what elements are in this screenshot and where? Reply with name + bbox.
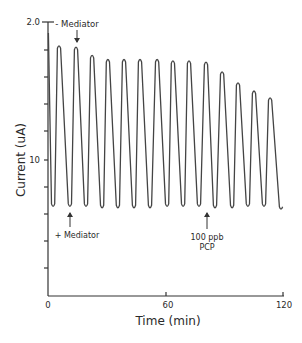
chart: 2.0 10 0 60 120 Time (min) Current (uA) …: [0, 0, 302, 343]
svg-text:+ Mediator: + Mediator: [55, 231, 100, 240]
x-tick-label-120: 120: [276, 300, 292, 310]
annotation-plus-mediator: + Mediator: [55, 212, 100, 240]
y-axis-title: Current (uA): [14, 123, 28, 197]
annotation-minus-mediator: - Mediator: [55, 19, 99, 43]
svg-text:- Mediator: - Mediator: [55, 19, 99, 29]
x-axis-title: Time (min): [134, 314, 200, 328]
y-tick-label-top: 2.0: [26, 17, 40, 27]
annotation-pcp: 100 ppb PCP: [190, 212, 223, 252]
x-tick-label-60: 60: [163, 300, 174, 310]
svg-text:PCP: PCP: [199, 243, 214, 252]
y-axis: [42, 22, 54, 296]
current-trace: [48, 33, 282, 209]
y-tick-label-mid: 10: [29, 155, 40, 165]
x-tick-label-0: 0: [45, 300, 50, 310]
x-axis: [48, 292, 284, 296]
svg-text:100 ppb: 100 ppb: [190, 233, 223, 242]
